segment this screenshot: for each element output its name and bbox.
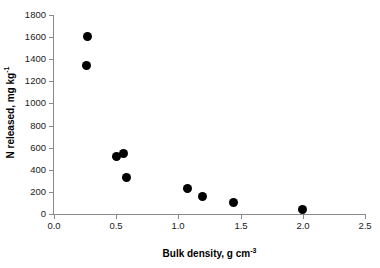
plot-area (54, 15, 365, 214)
scatter-chart-figure: 020040060080010001200140016001800 0.00.5… (0, 0, 380, 268)
data-point (122, 173, 131, 182)
x-axis-line (53, 214, 366, 215)
x-tick (365, 215, 366, 219)
x-tick-label: 2.5 (345, 221, 380, 231)
y-axis-title: N released, mg kg-1 (5, 9, 16, 217)
y-tick (49, 15, 53, 16)
y-tick (49, 37, 53, 38)
y-axis-title-text: N released, mg kg (5, 73, 16, 159)
x-tick (178, 215, 179, 219)
x-axis-title-text: Bulk density, g cm (163, 248, 251, 259)
y-tick (49, 126, 53, 127)
x-tick-label: 0.5 (96, 221, 136, 231)
y-tick (49, 59, 53, 60)
data-point (198, 192, 207, 201)
y-tick (49, 81, 53, 82)
data-point (183, 184, 192, 193)
y-axis-line (53, 15, 54, 215)
x-axis-title: Bulk density, g cm-3 (54, 248, 365, 259)
x-tick-label: 1.5 (221, 221, 261, 231)
y-tick (49, 192, 53, 193)
x-axis-title-exponent: -3 (250, 247, 256, 254)
x-tick (241, 215, 242, 219)
x-tick (54, 215, 55, 219)
y-tick (49, 148, 53, 149)
y-axis-title-wrapper: N released, mg kg-1 (0, 0, 20, 230)
y-tick (49, 214, 53, 215)
x-tick-label: 2.0 (283, 221, 323, 231)
data-point (83, 32, 92, 41)
y-tick (49, 103, 53, 104)
y-tick (49, 170, 53, 171)
y-axis-title-exponent: -1 (3, 67, 10, 73)
x-tick-label: 0.0 (34, 221, 74, 231)
x-tick-label: 1.0 (158, 221, 198, 231)
data-point (119, 149, 128, 158)
x-tick (303, 215, 304, 219)
x-tick (116, 215, 117, 219)
